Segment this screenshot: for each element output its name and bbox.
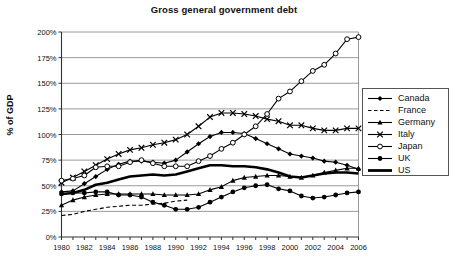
x-axis-tick-label: 1988 bbox=[145, 243, 162, 252]
x-axis-tick-label: 1992 bbox=[190, 243, 207, 252]
x-axis-tick-label: 2002 bbox=[304, 243, 321, 252]
legend-item-us[interactable]: US bbox=[367, 164, 444, 176]
y-axis-tick-label: 50% bbox=[41, 182, 56, 191]
diamond-marker-icon bbox=[367, 93, 393, 104]
legend-item-label: UK bbox=[398, 153, 411, 164]
y-axis-tick-label: 25% bbox=[41, 207, 56, 216]
y-axis-tick-label: 150% bbox=[37, 79, 57, 88]
cross-marker-icon bbox=[367, 129, 393, 140]
legend-item-germany[interactable]: Germany bbox=[367, 116, 444, 128]
x-axis-tick-label: 1994 bbox=[213, 243, 230, 252]
legend-item-label: Germany bbox=[398, 117, 435, 128]
dashed-line-icon bbox=[367, 105, 393, 116]
legend-item-canada[interactable]: Canada bbox=[367, 92, 444, 104]
y-axis-tick-label: 125% bbox=[37, 105, 57, 114]
legend-item-label: France bbox=[398, 105, 426, 116]
legend-item-japan[interactable]: Japan bbox=[367, 140, 444, 152]
series-france bbox=[62, 200, 188, 215]
filled-circle-marker-icon bbox=[367, 153, 393, 164]
legend-item-france[interactable]: France bbox=[367, 104, 444, 116]
y-axis-tick-label: 175% bbox=[37, 54, 57, 63]
legend-item-italy[interactable]: Italy bbox=[367, 128, 444, 140]
x-axis-tick-label: 2004 bbox=[327, 243, 344, 252]
y-axis-tick-label: 0% bbox=[46, 233, 57, 242]
legend-item-uk[interactable]: UK bbox=[367, 152, 444, 164]
y-axis-tick-label: 75% bbox=[41, 156, 56, 165]
series-line bbox=[62, 200, 188, 215]
x-axis-tick-label: 1980 bbox=[53, 243, 70, 252]
y-axis-tick-label: 100% bbox=[37, 131, 57, 140]
thick-line-icon bbox=[367, 165, 393, 176]
x-axis-tick-label: 1982 bbox=[76, 243, 93, 252]
x-axis-tick-label: 1996 bbox=[236, 243, 253, 252]
x-axis-tick-label: 1984 bbox=[99, 243, 116, 252]
series-uk bbox=[59, 182, 361, 211]
legend-item-label: Canada bbox=[398, 93, 430, 104]
series-line bbox=[62, 113, 359, 183]
x-axis-tick-label: 2000 bbox=[282, 243, 299, 252]
x-axis-tick-label: 1990 bbox=[167, 243, 184, 252]
open-circle-marker-icon bbox=[367, 141, 393, 152]
x-axis-tick-label: 2006 bbox=[350, 243, 367, 252]
legend-item-label: Italy bbox=[398, 129, 415, 140]
x-axis-tick-label: 1998 bbox=[259, 243, 276, 252]
y-axis-tick-label: 200% bbox=[37, 28, 57, 37]
legend-item-label: Japan bbox=[398, 141, 423, 152]
triangle-marker-icon bbox=[367, 117, 393, 128]
x-axis-tick-label: 1986 bbox=[122, 243, 139, 252]
series-canada bbox=[59, 130, 361, 195]
legend-item-label: US bbox=[398, 165, 411, 176]
chart-container: Gross general government debt % of GDP 0… bbox=[0, 0, 462, 274]
chart-legend: CanadaFranceGermanyItalyJapanUKUS bbox=[362, 88, 449, 176]
